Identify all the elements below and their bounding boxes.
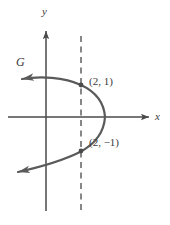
point-label-lower: (2, −1) [89,137,119,148]
point-marker-lower [79,149,84,154]
curve-label-G: G [16,56,25,68]
point-marker-upper [79,83,84,88]
x-axis-label: x [155,111,160,122]
graph-figure: y x G (2, 1) (2, −1) [0,0,170,225]
y-axis-label: y [42,6,47,17]
graph-canvas [0,0,170,225]
point-label-upper: (2, 1) [89,76,113,87]
